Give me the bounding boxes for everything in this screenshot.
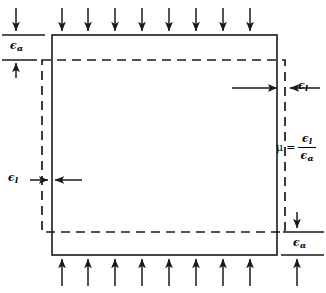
ell-subscript: l <box>309 136 312 146</box>
fraction-numerator: ϵl <box>300 132 314 147</box>
fraction-denominator: ϵα <box>298 147 315 163</box>
epsilon-symbol: ϵ <box>8 171 15 184</box>
alpha-subscript: α <box>307 153 313 163</box>
ell-subscript: l <box>305 83 308 93</box>
poisson-ratio-formula: μ = ϵl ϵα <box>276 132 316 163</box>
lateral-strain-label-left: ϵl <box>8 172 18 184</box>
axial-strain-label-bottom-right: ϵα <box>293 237 306 249</box>
equals-sign: = <box>286 141 295 154</box>
alpha-subscript: α <box>300 240 306 250</box>
bottom-load-arrows <box>62 259 297 286</box>
strain-ratio-fraction: ϵl ϵα <box>298 132 315 163</box>
epsilon-symbol: ϵ <box>302 132 309 145</box>
mu-symbol: μ <box>276 141 283 154</box>
original-body-outline <box>52 35 277 255</box>
ell-subscript: l <box>15 175 18 185</box>
epsilon-symbol: ϵ <box>10 39 17 52</box>
lateral-strain-label-right: ϵl <box>298 80 308 92</box>
axial-strain-label-top-left: ϵα <box>10 40 23 52</box>
alpha-subscript: α <box>17 43 23 53</box>
epsilon-symbol: ϵ <box>298 79 305 92</box>
epsilon-symbol: ϵ <box>293 236 300 249</box>
diagram-canvas: ϵα ϵl ϵl ϵα μ = ϵl ϵα <box>0 0 326 293</box>
top-load-arrows <box>16 8 250 31</box>
deformed-body-outline <box>42 60 285 232</box>
axial-strain-gauge-top-left <box>2 35 45 78</box>
